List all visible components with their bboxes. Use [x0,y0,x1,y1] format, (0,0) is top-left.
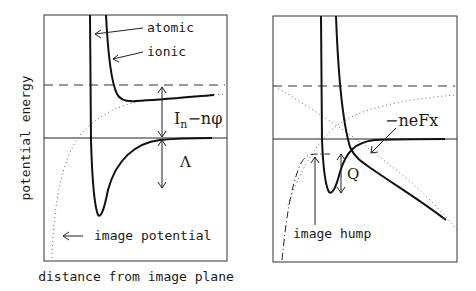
q-label: Q [347,165,359,183]
lambda-label: Λ [179,153,191,171]
atomic-pointer [95,28,143,34]
left-panel: atomic ionic In−nφ Λ image potential pot… [18,15,234,284]
y-axis-label: potential energy [18,75,33,200]
atomic-label: atomic [147,20,194,35]
image-hump-label: image hump [293,226,371,241]
right-atomic-curve [321,16,445,193]
x-axis-label: distance from image plane [38,269,234,284]
right-panel: −neFx Q image hump [273,16,457,262]
field-label: −neFx [385,111,438,130]
field-evaporation-diagram: atomic ionic In−nφ Λ image potential pot… [0,0,476,291]
image-potential-label: image potential [94,228,211,243]
combined-potential-curve [282,154,330,260]
ionic-label: ionic [147,44,186,59]
ionization-gap-label: In−nφ [174,109,222,131]
